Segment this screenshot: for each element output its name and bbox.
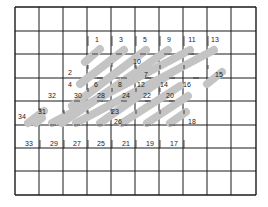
stitch-number-label: 26: [114, 118, 122, 125]
stitch-number-label: 16: [183, 81, 191, 88]
stitch-number-label: 4: [68, 81, 72, 88]
stitch-number-label: 29: [50, 140, 58, 147]
stitch-number-label: 13: [211, 36, 219, 43]
stitch-number-label: 12: [137, 81, 145, 88]
stitch-number-label: 34: [18, 113, 26, 120]
stitch-number-label: 3: [119, 36, 123, 43]
stitch-number-label: 25: [97, 140, 105, 147]
stitch-number-label: 11: [188, 36, 195, 43]
stitch-number-label: 31: [38, 108, 46, 115]
stitch-number-label: 17: [170, 140, 178, 147]
stitch-number-label: 30: [74, 92, 82, 99]
stitch-number-label: 33: [25, 140, 33, 147]
stitch-number-label: 7: [144, 71, 148, 78]
stitch-number-label: 32: [48, 92, 56, 99]
stitch-number-label: 14: [160, 81, 168, 88]
stitch-number-label: 1: [95, 36, 99, 43]
stitch-number-label: 15: [215, 71, 223, 78]
stitch-number-label: 10: [133, 58, 141, 65]
stitch-number-label: 19: [146, 140, 154, 147]
stitch-number-label: 22: [143, 92, 151, 99]
stitch-number-label: 24: [122, 92, 130, 99]
stitch-number-label: 20: [166, 92, 174, 99]
stitch-number-label: 8: [118, 81, 122, 88]
stitch-number-label: 28: [97, 92, 105, 99]
stitch-number-label: 21: [122, 140, 130, 147]
stitch-number-label: 2: [68, 69, 72, 76]
stitch-number-label: 23: [111, 108, 119, 115]
stitch-number-label: 18: [188, 118, 196, 125]
stitch-number-label: 9: [167, 36, 171, 43]
stitch-number-label: 27: [73, 140, 81, 147]
stitches: [28, 49, 222, 123]
stitch-number-label: 5: [143, 36, 147, 43]
stitch-diagram: 1359111310271546812141632302824222031233…: [0, 0, 268, 207]
stitch-number-label: 6: [94, 81, 98, 88]
